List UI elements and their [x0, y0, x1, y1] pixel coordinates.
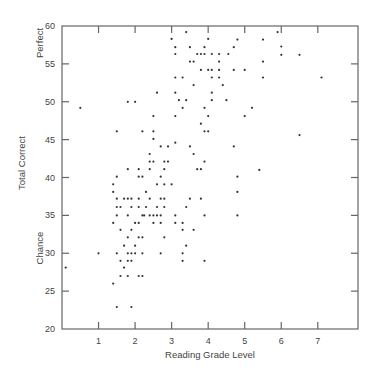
data-point: [138, 275, 140, 277]
data-point: [193, 153, 195, 155]
data-point: [211, 92, 213, 94]
data-point: [174, 46, 176, 48]
data-point: [218, 53, 220, 55]
x-tick-label: 6: [279, 336, 284, 346]
y-annotation-perfect: Perfect: [34, 28, 45, 58]
x-tick-label: 3: [169, 336, 174, 346]
data-point: [138, 176, 140, 178]
data-point: [251, 107, 253, 109]
data-point: [116, 252, 118, 254]
data-point: [244, 115, 246, 117]
data-point: [163, 236, 165, 238]
data-point: [112, 183, 114, 185]
data-point: [203, 130, 205, 132]
data-point: [174, 115, 176, 117]
data-point: [182, 252, 184, 254]
data-point: [130, 306, 132, 308]
data-point: [182, 107, 184, 109]
data-point: [160, 222, 162, 224]
data-point: [189, 198, 191, 200]
data-point: [185, 31, 187, 33]
y-tick-label: 40: [45, 173, 55, 183]
data-point: [193, 61, 195, 63]
data-point: [160, 176, 162, 178]
y-tick-label: 20: [45, 324, 55, 334]
data-point: [174, 92, 176, 94]
data-point: [119, 275, 121, 277]
data-point: [196, 53, 198, 55]
data-point: [203, 260, 205, 262]
data-point: [152, 115, 154, 117]
data-point: [218, 61, 220, 63]
data-point: [233, 69, 235, 71]
data-point: [149, 198, 151, 200]
data-point: [182, 260, 184, 262]
data-point: [143, 214, 145, 216]
data-point: [130, 198, 132, 200]
data-point: [218, 69, 220, 71]
data-point: [116, 206, 118, 208]
data-point: [298, 134, 300, 136]
y-tick-label: 30: [45, 248, 55, 258]
data-point: [134, 252, 136, 254]
data-point: [138, 206, 140, 208]
data-point: [116, 306, 118, 308]
data-point: [189, 61, 191, 63]
data-point: [189, 46, 191, 48]
data-point: [189, 145, 191, 147]
data-point: [207, 38, 209, 40]
data-point: [156, 183, 158, 185]
data-point: [138, 236, 140, 238]
data-point: [141, 236, 143, 238]
data-point: [149, 214, 151, 216]
data-point: [149, 161, 151, 163]
data-point: [123, 245, 125, 247]
data-point: [174, 53, 176, 55]
data-point: [141, 275, 143, 277]
y-tick-label: 50: [45, 97, 55, 107]
data-point: [203, 46, 205, 48]
data-point: [236, 39, 238, 41]
data-point: [152, 214, 154, 216]
data-point: [149, 153, 151, 155]
data-point: [156, 92, 158, 94]
data-point: [138, 168, 140, 170]
data-point: [200, 198, 202, 200]
data-point: [203, 161, 205, 163]
data-point: [211, 69, 213, 71]
data-point: [244, 69, 246, 71]
data-point: [222, 84, 224, 86]
data-point: [119, 260, 121, 262]
data-point: [160, 145, 162, 147]
data-point: [152, 161, 154, 163]
plot-frame: [62, 26, 358, 329]
y-tick-label: 25: [45, 286, 55, 296]
data-point: [127, 252, 129, 254]
data-point: [116, 130, 118, 132]
data-point: [119, 206, 121, 208]
data-point: [127, 214, 129, 216]
y-tick-label: 60: [45, 21, 55, 31]
data-point: [185, 99, 187, 101]
data-point: [200, 168, 202, 170]
data-point: [163, 161, 165, 163]
data-point: [116, 214, 118, 216]
data-point: [236, 191, 238, 193]
data-point: [97, 252, 99, 254]
data-point: [145, 206, 147, 208]
data-point: [134, 222, 136, 224]
x-tick-label: 7: [315, 336, 320, 346]
data-point: [171, 38, 173, 40]
data-point: [127, 260, 129, 262]
data-point: [262, 76, 264, 78]
x-axis-ticks: 1234567: [96, 26, 320, 346]
data-point: [112, 283, 114, 285]
data-point: [160, 198, 162, 200]
data-point: [138, 222, 140, 224]
data-point: [127, 275, 129, 277]
data-point: [280, 45, 282, 47]
data-point: [193, 84, 195, 86]
data-point: [167, 145, 169, 147]
data-point: [141, 252, 143, 254]
data-point: [152, 130, 154, 132]
